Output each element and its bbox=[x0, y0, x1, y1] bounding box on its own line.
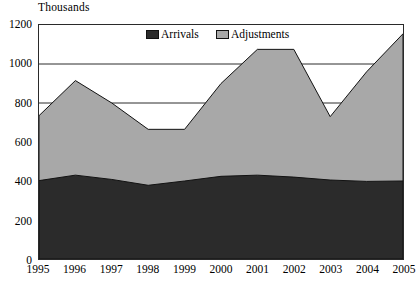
y-tick-label: 200 bbox=[15, 215, 32, 227]
y-tick-label: 800 bbox=[15, 97, 32, 109]
x-tick-label: 1996 bbox=[63, 263, 86, 275]
x-tick-label: 1999 bbox=[173, 263, 196, 275]
x-tick-label: 2004 bbox=[356, 263, 379, 275]
plot-area bbox=[38, 24, 404, 260]
plot-svg bbox=[39, 25, 403, 259]
x-tick-label: 2001 bbox=[246, 263, 269, 275]
stacked-area-chart: Thousands 020040060080010001200 19951996… bbox=[0, 0, 416, 293]
y-tick-label: 1000 bbox=[9, 57, 32, 69]
x-tick-label: 2003 bbox=[319, 263, 342, 275]
area-series-arrivals bbox=[39, 175, 403, 259]
chart-axis-title: Thousands bbox=[38, 1, 90, 13]
x-tick-label: 1997 bbox=[100, 263, 123, 275]
x-tick-label: 2005 bbox=[393, 263, 416, 275]
x-tick-label: 2002 bbox=[283, 263, 306, 275]
y-axis-labels: 020040060080010001200 bbox=[0, 0, 36, 293]
x-tick-label: 2000 bbox=[210, 263, 233, 275]
y-tick-label: 1200 bbox=[9, 18, 32, 30]
x-tick-label: 1995 bbox=[27, 263, 50, 275]
y-tick-label: 600 bbox=[15, 136, 32, 148]
x-axis-labels: 1995199619971998199920002001200220032004… bbox=[38, 263, 404, 283]
y-tick-label: 400 bbox=[15, 175, 32, 187]
x-tick-label: 1998 bbox=[136, 263, 159, 275]
